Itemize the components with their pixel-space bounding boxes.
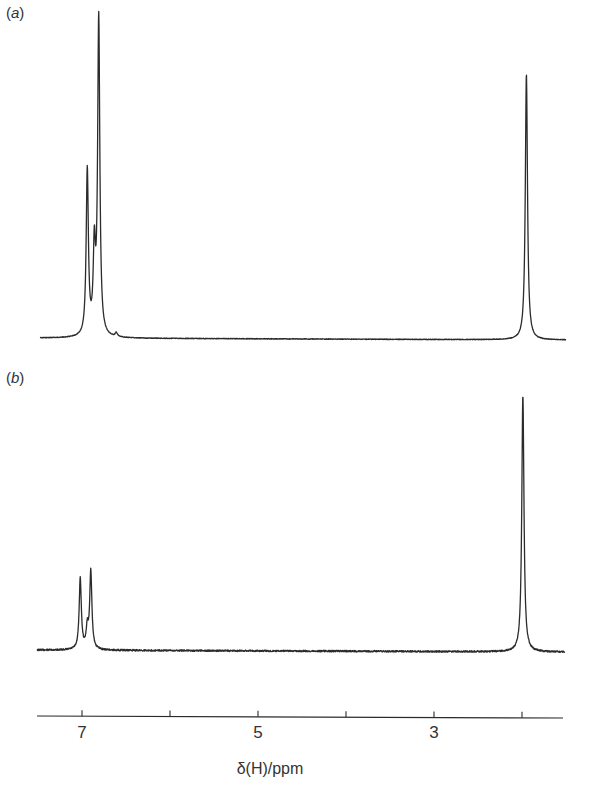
tick-label-5: 5 (253, 723, 262, 743)
spectrum-a-trace (40, 12, 566, 340)
nmr-spectra-plot (0, 0, 590, 807)
tick-label-7: 7 (77, 723, 86, 743)
x-axis-label: δ(H)/ppm (237, 760, 304, 778)
x-axis (37, 710, 563, 718)
tick-label-3: 3 (429, 723, 438, 743)
spectrum-b-trace (37, 397, 565, 652)
